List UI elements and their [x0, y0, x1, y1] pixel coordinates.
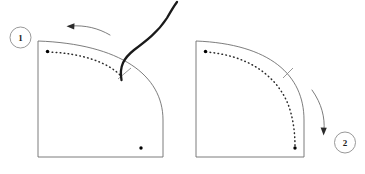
- panel-1-corner-dot: [139, 146, 142, 149]
- figure-root: 1 2: [0, 0, 365, 174]
- panel-1-step-label-text: 1: [18, 33, 23, 43]
- panel-2-step-label-text: 2: [343, 138, 348, 148]
- panel-2-stitch-end-dot: [293, 146, 296, 149]
- panel-2-stitch-start-dot: [204, 50, 207, 53]
- panel-1-step-label: 1: [10, 27, 31, 48]
- panel-2-step-label: 2: [335, 132, 356, 153]
- diagram-canvas: 1 2: [0, 0, 365, 174]
- panel-1-stitch-start-dot: [46, 50, 49, 53]
